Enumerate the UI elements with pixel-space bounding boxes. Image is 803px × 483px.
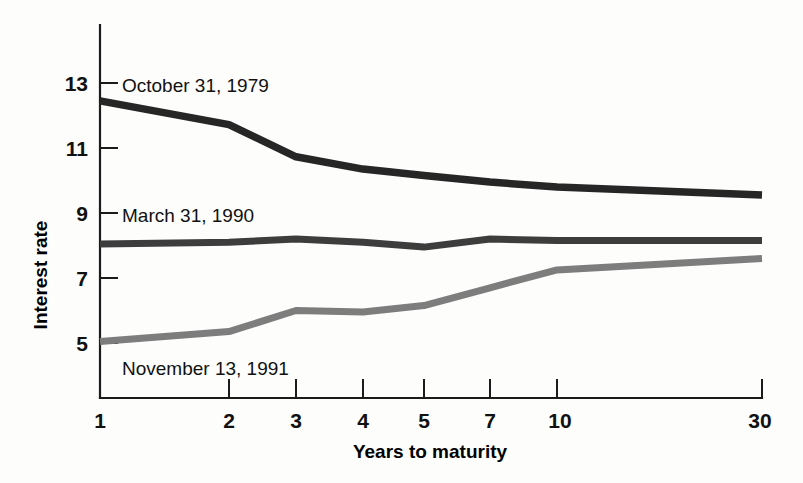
annotation-october-1979: October 31, 1979 (122, 75, 269, 96)
y-tick-label-11: 11 (66, 137, 89, 160)
y-tick-label-9: 9 (76, 202, 88, 225)
annotation-march-1990: March 31, 1990 (122, 205, 254, 226)
x-tick-label-1: 1 (94, 409, 106, 432)
x-tick-label-7: 7 (484, 409, 496, 432)
y-tick-label-5: 5 (76, 332, 88, 355)
x-tick-label-2: 2 (223, 409, 235, 432)
chart-canvas: 13 11 9 7 5 1 2 3 4 5 7 10 30 Interest r… (0, 0, 803, 483)
x-tick-label-10: 10 (548, 409, 571, 432)
y-axis-title: Interest rate (30, 221, 51, 330)
y-tick-label-13: 13 (65, 72, 88, 95)
x-tick-label-4: 4 (357, 409, 369, 432)
annotation-november-1991: November 13, 1991 (122, 358, 289, 379)
series-line-march-1990 (100, 239, 762, 247)
x-tick-label-30: 30 (748, 409, 771, 432)
yield-curve-chart: 13 11 9 7 5 1 2 3 4 5 7 10 30 Interest r… (0, 0, 803, 483)
x-axis-title: Years to maturity (353, 441, 508, 462)
series-line-november-1991 (100, 259, 762, 342)
x-tick-label-5: 5 (418, 409, 430, 432)
x-tick-label-3: 3 (290, 409, 302, 432)
y-tick-label-7: 7 (76, 267, 88, 290)
series-line-october-1979 (100, 101, 762, 195)
